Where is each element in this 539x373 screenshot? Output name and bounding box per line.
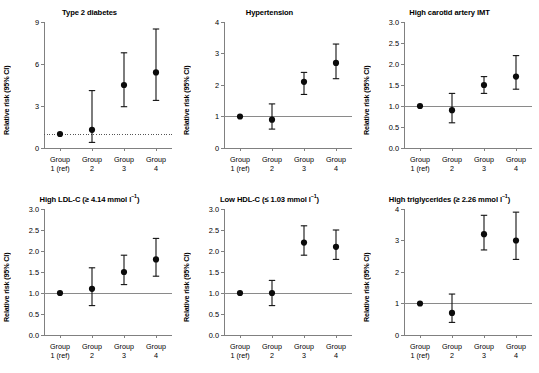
data-point-marker <box>121 269 127 275</box>
data-point-marker <box>269 290 275 296</box>
data-point-marker <box>269 117 275 123</box>
y-tick-label: 0.0 <box>209 331 219 340</box>
data-point-marker <box>333 60 339 66</box>
data-point-marker <box>237 113 243 119</box>
x-category-label: Group <box>442 155 462 164</box>
y-tick-label: 0 <box>215 144 219 153</box>
x-category-label: 1 (ref) <box>410 164 429 173</box>
y-tick-label: 4 <box>395 205 399 214</box>
forest-plot-figure: Type 2 diabetesRelative risk (95% CI)036… <box>0 0 539 373</box>
data-point-marker <box>513 237 519 243</box>
data-point-marker <box>57 290 63 296</box>
data-point-marker <box>417 103 423 109</box>
x-category-label: 2 <box>90 351 94 360</box>
data-point-marker <box>57 131 63 137</box>
x-category-label: 1 (ref) <box>230 351 249 360</box>
x-category-label: 3 <box>302 351 306 360</box>
data-point-marker <box>237 290 243 296</box>
x-category-label: 2 <box>90 164 94 173</box>
y-tick-label: 1.0 <box>389 102 399 111</box>
x-category-label: 4 <box>514 164 518 173</box>
x-category-label: Group <box>50 155 70 164</box>
x-category-label: 4 <box>334 164 338 173</box>
data-point-marker <box>449 107 455 113</box>
y-tick-label: 1.0 <box>29 289 39 298</box>
x-category-label: Group <box>82 155 102 164</box>
plot-area: 0369Group1 (ref)Group2Group3Group4 <box>0 0 179 186</box>
y-tick-label: 1.5 <box>389 81 399 90</box>
x-category-label: Group <box>230 155 250 164</box>
x-category-label: Group <box>326 342 346 351</box>
y-tick-label: 0.0 <box>29 331 39 340</box>
x-category-label: Group <box>262 342 282 351</box>
x-category-label: Group <box>146 342 166 351</box>
x-category-label: Group <box>114 342 134 351</box>
plot-area: 0.00.51.01.52.02.53.0Group1 (ref)Group2G… <box>0 187 179 373</box>
y-tick-label: 3.0 <box>209 205 219 214</box>
x-category-label: Group <box>294 155 314 164</box>
y-tick-label: 0 <box>395 331 399 340</box>
y-tick-label: 1 <box>215 112 219 121</box>
data-point-marker <box>449 310 455 316</box>
y-tick-label: 3.0 <box>389 18 399 27</box>
x-category-label: 1 (ref) <box>50 351 69 360</box>
x-category-label: 2 <box>270 351 274 360</box>
y-tick-label: 2.0 <box>389 60 399 69</box>
x-category-label: 4 <box>154 351 158 360</box>
x-category-label: Group <box>146 155 166 164</box>
x-category-label: 1 (ref) <box>230 164 249 173</box>
data-point-marker <box>89 286 95 292</box>
x-category-label: 1 (ref) <box>50 164 69 173</box>
panel-high-triglycerides: High triglycerides (≥ 2.26 mmol l–1)Rela… <box>360 187 539 373</box>
x-category-label: Group <box>326 155 346 164</box>
y-tick-label: 2 <box>395 268 399 277</box>
y-tick-label: 2 <box>215 81 219 90</box>
x-category-label: 1 (ref) <box>410 351 429 360</box>
data-point-marker <box>481 231 487 237</box>
y-tick-label: 3 <box>35 102 39 111</box>
x-category-label: 4 <box>514 351 518 360</box>
panel-hypertension: HypertensionRelative risk (95% CI)01234G… <box>180 0 359 186</box>
plot-area: 01234Group1 (ref)Group2Group3Group4 <box>180 0 359 186</box>
panel-type-2-diabetes: Type 2 diabetesRelative risk (95% CI)036… <box>0 0 179 186</box>
y-tick-label: 1.5 <box>209 268 219 277</box>
y-tick-label: 1.0 <box>209 289 219 298</box>
x-category-label: Group <box>294 342 314 351</box>
x-category-label: 3 <box>122 164 126 173</box>
y-tick-label: 6 <box>35 60 39 69</box>
y-tick-label: 3 <box>395 236 399 245</box>
y-tick-label: 0 <box>35 144 39 153</box>
x-category-label: Group <box>474 155 494 164</box>
data-point-marker <box>513 74 519 80</box>
data-point-marker <box>89 127 95 133</box>
data-point-marker <box>301 79 307 85</box>
plot-area: 0.00.51.01.52.02.53.0Group1 (ref)Group2G… <box>180 187 359 373</box>
y-tick-label: 1.5 <box>29 268 39 277</box>
data-point-marker <box>333 244 339 250</box>
x-category-label: 3 <box>482 164 486 173</box>
data-point-marker <box>153 256 159 262</box>
y-tick-label: 2.0 <box>29 247 39 256</box>
y-tick-label: 0.0 <box>389 144 399 153</box>
plot-area: 01234Group1 (ref)Group2Group3Group4 <box>360 187 539 373</box>
data-point-marker <box>153 69 159 75</box>
y-tick-label: 3.0 <box>29 205 39 214</box>
data-point-marker <box>417 300 423 306</box>
x-category-label: Group <box>262 155 282 164</box>
x-category-label: 2 <box>270 164 274 173</box>
y-tick-label: 2.5 <box>389 39 399 48</box>
data-point-marker <box>301 240 307 246</box>
x-category-label: Group <box>230 342 250 351</box>
y-tick-label: 0.5 <box>209 310 219 319</box>
x-category-label: Group <box>474 342 494 351</box>
y-tick-label: 2.5 <box>209 226 219 235</box>
x-category-label: 3 <box>482 351 486 360</box>
y-tick-label: 2.0 <box>209 247 219 256</box>
x-category-label: 2 <box>450 351 454 360</box>
y-tick-label: 0.5 <box>29 310 39 319</box>
x-category-label: Group <box>114 155 134 164</box>
y-tick-label: 2.5 <box>29 226 39 235</box>
x-category-label: 3 <box>302 164 306 173</box>
x-category-label: Group <box>506 155 526 164</box>
data-point-marker <box>121 82 127 88</box>
